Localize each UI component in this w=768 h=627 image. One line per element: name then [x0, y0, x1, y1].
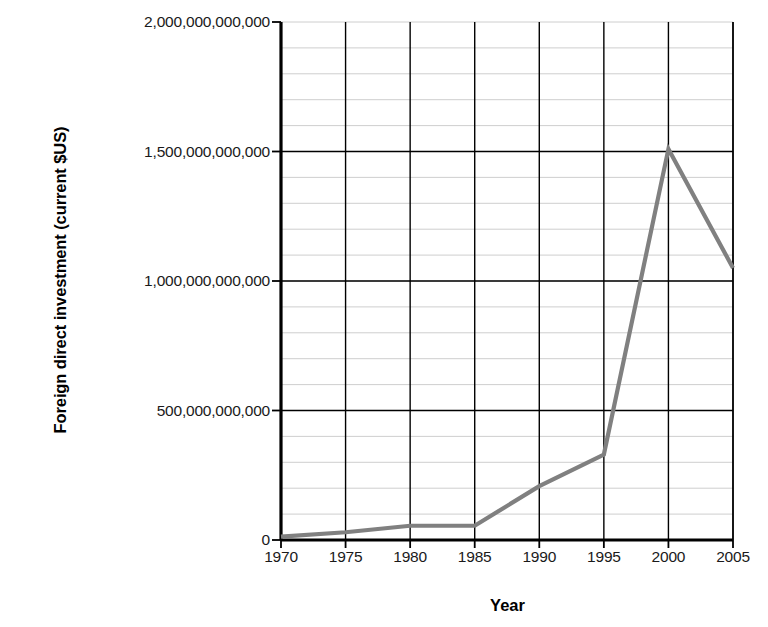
axis-ticks [272, 22, 733, 548]
major-gridlines [281, 152, 733, 411]
chart-plot-area [0, 0, 768, 627]
chart-figure: Foreign direct investment (current $US) … [0, 0, 768, 627]
data-series-line [281, 149, 733, 537]
